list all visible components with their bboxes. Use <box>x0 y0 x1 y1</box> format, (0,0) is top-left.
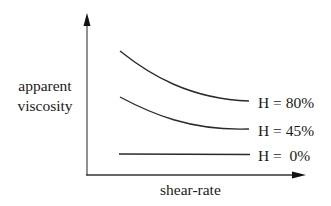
y-axis-label: apparent viscosity <box>4 76 86 116</box>
viscosity-chart: H = 80% H = 45% H = 0% apparent viscosit… <box>0 0 331 206</box>
series-h45-line <box>120 97 249 129</box>
y-axis-label-line-1: apparent <box>4 76 86 96</box>
series-h0-line <box>119 154 250 155</box>
series-h80-label: H = 80% <box>258 94 314 111</box>
y-axis-label-line-2: viscosity <box>4 96 86 116</box>
x-axis-arrow-icon <box>292 172 306 179</box>
series-h45-label: H = 45% <box>258 122 314 139</box>
series-h80-line <box>120 51 249 101</box>
y-axis-arrow-icon <box>84 13 91 26</box>
x-axis-label: shear-rate <box>160 181 221 199</box>
series-h0-label: H = 0% <box>258 147 310 164</box>
